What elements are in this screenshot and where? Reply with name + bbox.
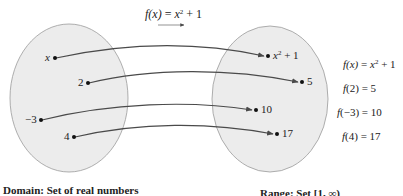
- equation-f-2: f(2) = 5: [343, 83, 376, 94]
- mapping-diagram: [0, 0, 403, 196]
- range-tail: + 1: [281, 49, 298, 61]
- domain-point-neg3: −3: [25, 114, 37, 125]
- eq1-arg: (2): [346, 82, 359, 94]
- range-label: Range: Set [1, ∞): [260, 188, 340, 196]
- range-point-10: 10: [261, 104, 272, 115]
- eq2-arg: (−3): [340, 106, 359, 118]
- eq1-eq: =: [359, 82, 371, 94]
- eq2-rhs: 10: [371, 106, 382, 118]
- eq0-arg: (x): [346, 58, 358, 70]
- domain-point-2: 2: [78, 77, 84, 88]
- function-title: f(x) = x2 + 1: [145, 8, 202, 20]
- eq3-arg: (4): [345, 130, 358, 142]
- range-set-ellipse: [212, 26, 328, 172]
- range-point-x2plus1: x2 + 1: [273, 50, 299, 61]
- title-arg: (x): [148, 7, 161, 21]
- title-tail: + 1: [183, 7, 202, 21]
- eq3-eq: =: [358, 130, 370, 142]
- equation-general: f(x) = x2 + 1: [343, 59, 396, 70]
- eq3-rhs: 17: [370, 130, 381, 142]
- domain-point-x: x: [45, 52, 50, 63]
- eq2-eq: =: [359, 106, 371, 118]
- title-eq: =: [162, 7, 175, 21]
- equation-f-4: f(4) = 17: [342, 131, 381, 142]
- eq1-rhs: 5: [371, 82, 377, 94]
- range-point-17: 17: [282, 128, 293, 139]
- domain-label: Domain: Set of real numbers: [3, 185, 138, 196]
- eq0-eq: =: [358, 58, 370, 70]
- domain-point-4: 4: [64, 131, 70, 142]
- eq0-tail: + 1: [378, 58, 395, 70]
- domain-set-ellipse: [10, 24, 128, 172]
- equation-f-neg3: f(−3) = 10: [337, 107, 382, 118]
- range-point-5: 5: [307, 76, 313, 87]
